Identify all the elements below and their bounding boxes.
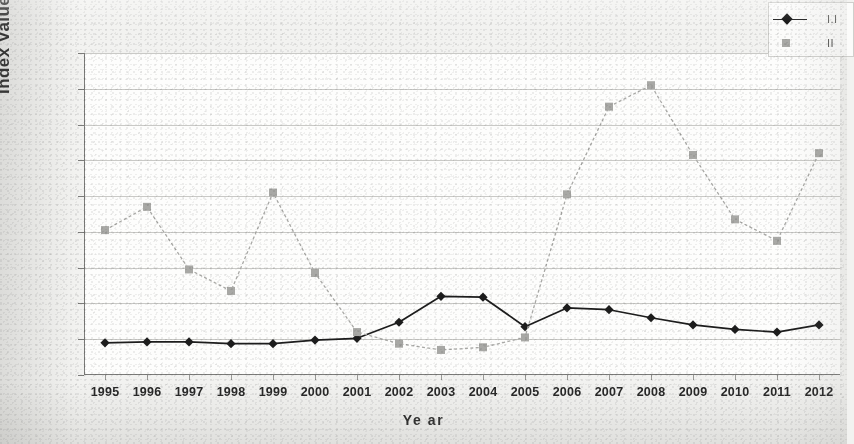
- y-axis-tick-mark: [78, 268, 84, 269]
- y-axis-tick-mark: [78, 339, 84, 340]
- legend-item-2: II: [769, 37, 854, 51]
- gridline: [85, 196, 840, 197]
- gridline: [85, 232, 840, 233]
- x-axis-tick-label: 2001: [336, 385, 378, 399]
- gridline: [85, 303, 840, 304]
- x-axis-tick-mark: [147, 375, 148, 380]
- x-axis-tick-mark: [777, 375, 778, 380]
- y-axis-title: Index Values: [0, 0, 14, 140]
- x-axis-tick-mark: [441, 375, 442, 380]
- x-axis-tick-mark: [357, 375, 358, 380]
- chart-legend: I.III: [768, 2, 854, 57]
- y-axis-tick-mark: [78, 125, 84, 126]
- gridline: [85, 160, 840, 161]
- x-axis-tick-mark: [231, 375, 232, 380]
- y-axis-tick-mark: [78, 196, 84, 197]
- x-axis-tick-label: 2007: [588, 385, 630, 399]
- gridline: [85, 268, 840, 269]
- legend-square-marker: [782, 39, 790, 47]
- x-axis-tick-label: 2008: [630, 385, 672, 399]
- x-axis-tick-label: 2005: [504, 385, 546, 399]
- x-axis-tick-label: 2002: [378, 385, 420, 399]
- y-axis-tick-mark: [78, 89, 84, 90]
- x-axis-tick-mark: [651, 375, 652, 380]
- x-axis-tick-mark: [189, 375, 190, 380]
- x-axis-tick-mark: [273, 375, 274, 380]
- legend-label: II: [827, 37, 834, 49]
- x-axis-tick-label: 2006: [546, 385, 588, 399]
- x-axis-tick-mark: [483, 375, 484, 380]
- x-axis-tick-mark: [399, 375, 400, 380]
- y-axis-tick-mark: [78, 53, 84, 54]
- x-axis-tick-mark: [735, 375, 736, 380]
- x-axis-tick-mark: [525, 375, 526, 380]
- x-axis-tick-mark: [819, 375, 820, 380]
- y-axis-tick-mark: [78, 375, 84, 376]
- gridline: [85, 53, 840, 54]
- x-axis-tick-label: 1998: [210, 385, 252, 399]
- x-axis-tick-mark: [609, 375, 610, 380]
- x-axis-tick-label: 1997: [168, 385, 210, 399]
- y-axis-tick-mark: [78, 303, 84, 304]
- legend-label: I.I: [827, 13, 838, 25]
- x-axis-tick-label: 2009: [672, 385, 714, 399]
- plot-area: [84, 53, 840, 375]
- x-axis-tick-mark: [693, 375, 694, 380]
- legend-item-1: I.I: [769, 13, 854, 27]
- gridline: [85, 125, 840, 126]
- x-axis-tick-label: 2000: [294, 385, 336, 399]
- x-axis-tick-label: 1996: [126, 385, 168, 399]
- y-axis-tick-mark: [78, 232, 84, 233]
- x-axis-tick-mark: [105, 375, 106, 380]
- x-axis-tick-label: 1999: [252, 385, 294, 399]
- x-axis-tick-label: 2011: [756, 385, 798, 399]
- x-axis-tick-label: 2010: [714, 385, 756, 399]
- x-axis-tick-label: 2003: [420, 385, 462, 399]
- x-axis-tick-mark: [567, 375, 568, 380]
- gridline: [85, 89, 840, 90]
- x-axis-tick-mark: [315, 375, 316, 380]
- x-axis-tick-label: 1995: [84, 385, 126, 399]
- gridline: [85, 339, 840, 340]
- legend-diamond-marker: [781, 13, 792, 24]
- y-axis-tick-mark: [78, 160, 84, 161]
- x-axis-tick-label: 2004: [462, 385, 504, 399]
- x-axis-title: Ye ar: [0, 412, 847, 428]
- x-axis-tick-label: 2012: [798, 385, 840, 399]
